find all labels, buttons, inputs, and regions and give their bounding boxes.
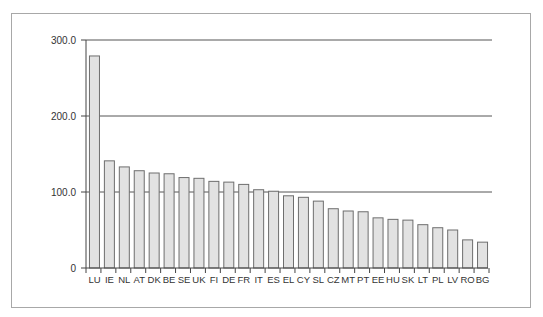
x-tick-label: FR: [237, 274, 250, 285]
x-tick-label: BG: [476, 274, 490, 285]
bar-uk: [194, 178, 204, 268]
x-tick-label: LT: [418, 274, 429, 285]
x-tick-label: FI: [210, 274, 218, 285]
bar-fi: [209, 181, 219, 268]
bar-pl: [433, 228, 443, 268]
x-tick-label: DK: [148, 274, 162, 285]
x-tick-label: HU: [386, 274, 400, 285]
bar-chart: 0100.0200.0300.0 LUIENLATDKBESEUKFIDEFRI…: [0, 0, 543, 317]
x-tick-label: DE: [222, 274, 235, 285]
bar-nl: [119, 167, 129, 268]
bar-de: [224, 182, 234, 268]
y-axis-ticks: 0100.0200.0300.0: [51, 35, 86, 274]
bar-dk: [149, 173, 159, 268]
x-tick-label: MT: [341, 274, 355, 285]
bar-se: [179, 178, 189, 268]
x-tick-label: CY: [297, 274, 311, 285]
bar-el: [284, 196, 294, 268]
x-tick-label: EL: [283, 274, 295, 285]
y-tick-label: 100.0: [51, 187, 76, 198]
bar-lu: [89, 56, 99, 268]
bar-es: [269, 191, 279, 268]
x-tick-label: IE: [105, 274, 114, 285]
x-tick-label: SK: [402, 274, 415, 285]
bar-pt: [358, 212, 368, 268]
bar-be: [164, 174, 174, 268]
x-tick-label: SE: [178, 274, 191, 285]
y-tick-label: 200.0: [51, 111, 76, 122]
bar-cz: [328, 209, 338, 268]
bar-mt: [343, 211, 353, 268]
bar-fr: [239, 184, 249, 268]
x-tick-label: CZ: [327, 274, 340, 285]
bar-ro: [463, 240, 473, 268]
x-tick-label: IT: [254, 274, 263, 285]
bar-ie: [104, 161, 114, 268]
x-axis-ticks: LUIENLATDKBESEUKFIDEFRITESELCYSLCZMTPTEE…: [86, 268, 489, 285]
x-tick-label: EE: [372, 274, 385, 285]
x-tick-label: LV: [447, 274, 459, 285]
bar-at: [134, 171, 144, 268]
x-tick-label: LU: [88, 274, 100, 285]
gridlines: [86, 40, 492, 192]
bar-lv: [448, 230, 458, 268]
x-tick-label: RO: [460, 274, 474, 285]
bar-bg: [478, 242, 488, 268]
x-tick-label: SL: [313, 274, 325, 285]
y-tick-label: 300.0: [51, 35, 76, 46]
x-tick-label: AT: [134, 274, 146, 285]
bar-cy: [298, 197, 308, 268]
x-tick-label: NL: [118, 274, 130, 285]
x-tick-label: BE: [163, 274, 176, 285]
x-tick-label: PL: [432, 274, 444, 285]
bar-sk: [403, 220, 413, 268]
x-tick-label: PT: [357, 274, 369, 285]
bars: [89, 56, 487, 268]
bar-it: [254, 190, 264, 268]
bar-hu: [388, 219, 398, 268]
x-tick-label: ES: [267, 274, 280, 285]
bar-sl: [313, 201, 323, 268]
bar-lt: [418, 225, 428, 268]
bar-ee: [373, 218, 383, 268]
y-tick-label: 0: [70, 263, 76, 274]
x-tick-label: UK: [192, 274, 206, 285]
